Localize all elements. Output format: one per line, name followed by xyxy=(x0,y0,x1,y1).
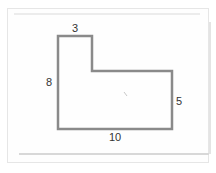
label-top-width: 3 xyxy=(72,23,78,34)
l-shape-polygon xyxy=(0,0,216,173)
label-right-height: 5 xyxy=(176,96,182,107)
l-shape-outline xyxy=(58,36,172,129)
label-bottom-width: 10 xyxy=(109,132,121,143)
cursor-mark xyxy=(124,92,127,96)
label-left-height: 8 xyxy=(46,77,52,88)
